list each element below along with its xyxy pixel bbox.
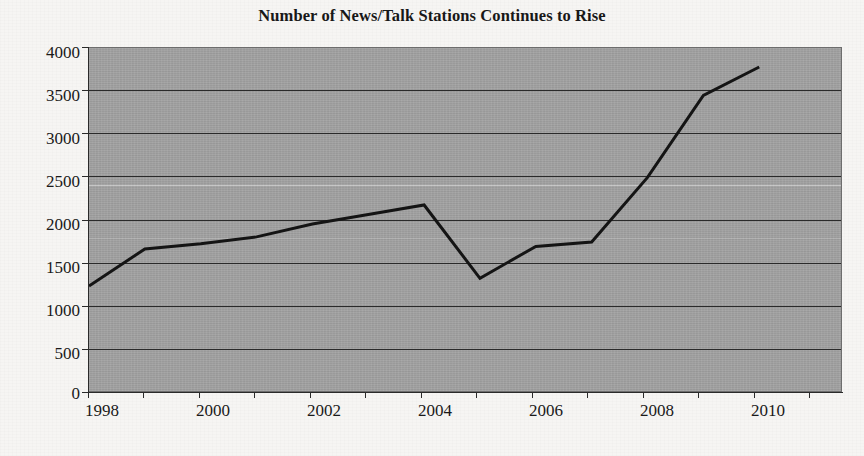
x-axis-tick-label: 2006 (506, 401, 586, 421)
y-axis-tick-label: 1000 (10, 302, 80, 319)
y-axis-tick-label: 4000 (10, 44, 80, 61)
x-axis-tick-label: 1998 (62, 401, 142, 421)
y-axis-tick-label: 0 (10, 385, 80, 402)
y-axis-tick-label: 500 (10, 345, 80, 362)
y-axis-tick-label: 1500 (10, 259, 80, 276)
y-axis-tick-label: 2500 (10, 173, 80, 190)
page-title: Number of News/Talk Stations Continues t… (0, 6, 864, 26)
y-axis-labels: 4000 3500 3000 2500 2000 1500 1000 500 0 (8, 0, 80, 456)
x-axis-tick-label: 2002 (284, 401, 364, 421)
x-axis-line (88, 392, 843, 393)
plot-area (88, 47, 842, 392)
y-axis-tick-label: 3500 (10, 87, 80, 104)
chart-page: Number of News/Talk Stations Continues t… (0, 0, 864, 456)
x-axis-tick-label: 2000 (173, 401, 253, 421)
y-axis-tick-label: 2000 (10, 216, 80, 233)
x-axis-tick-label: 2010 (728, 401, 808, 421)
series-line (89, 48, 842, 392)
x-axis-tick-label: 2004 (395, 401, 475, 421)
y-axis-line (88, 47, 89, 393)
y-axis-tick-label: 3000 (10, 130, 80, 147)
x-axis-tick-label: 2008 (617, 401, 697, 421)
